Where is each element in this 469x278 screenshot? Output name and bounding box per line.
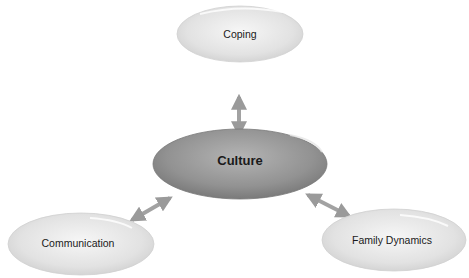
- node-coping: Coping: [177, 6, 303, 62]
- arrow-culture-communication: [132, 198, 170, 220]
- node-communication: Communication: [8, 213, 154, 275]
- diagram-svg: Coping Culture Communication Family Dyna…: [0, 0, 469, 278]
- node-label-coping: Coping: [223, 28, 256, 40]
- node-label-culture: Culture: [217, 153, 263, 168]
- node-label-communication: Communication: [42, 237, 115, 249]
- node-family-dynamics: Family Dynamics: [322, 209, 466, 271]
- diagram-canvas: Coping Culture Communication Family Dyna…: [0, 0, 469, 278]
- node-culture: Culture: [153, 129, 327, 199]
- arrow-culture-family: [308, 195, 349, 216]
- node-label-family-dynamics: Family Dynamics: [352, 234, 432, 246]
